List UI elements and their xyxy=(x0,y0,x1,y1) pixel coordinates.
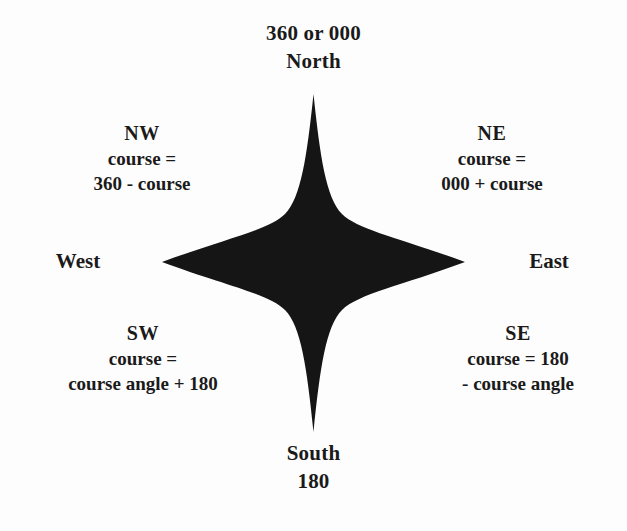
north-name: North xyxy=(0,48,627,76)
east-label: East xyxy=(489,248,609,276)
west-name: West xyxy=(18,248,138,276)
north-label: 360 or 000 North xyxy=(0,20,627,75)
south-label: South 180 xyxy=(0,440,627,495)
north-degrees: 360 or 000 xyxy=(0,20,627,48)
compass-course-diagram: 360 or 000 North NW course = 360 - cours… xyxy=(0,0,627,531)
east-name: East xyxy=(489,248,609,276)
south-name: South xyxy=(0,440,627,468)
west-label: West xyxy=(18,248,138,276)
south-degrees: 180 xyxy=(0,468,627,496)
compass-star-path xyxy=(162,94,465,432)
compass-star-icon xyxy=(160,86,475,440)
